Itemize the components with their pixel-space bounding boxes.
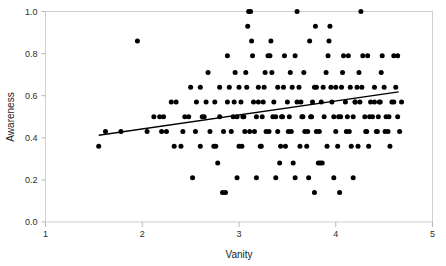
data-point xyxy=(252,129,257,134)
y-tick-label: 0.4 xyxy=(25,133,38,143)
data-point xyxy=(288,70,293,75)
data-point xyxy=(251,100,256,105)
data-point xyxy=(345,114,350,119)
data-point xyxy=(145,129,150,134)
data-point xyxy=(325,144,330,149)
data-point xyxy=(206,70,211,75)
data-point xyxy=(306,175,311,180)
data-point xyxy=(223,190,228,195)
data-point xyxy=(333,129,338,134)
data-point xyxy=(341,53,346,58)
data-point xyxy=(360,53,365,58)
data-point xyxy=(337,190,342,195)
data-point xyxy=(290,85,295,90)
data-point xyxy=(270,114,275,119)
data-point xyxy=(358,9,363,14)
data-point xyxy=(372,85,377,90)
data-point xyxy=(256,100,261,105)
data-point xyxy=(344,129,349,134)
data-point xyxy=(212,100,217,105)
y-tick-label: 0.6 xyxy=(25,91,38,101)
data-point xyxy=(217,85,222,90)
data-point xyxy=(263,70,268,75)
data-point xyxy=(193,129,198,134)
chart-canvas: 0.00.20.40.60.81.0 12345 Vanity Awarenes… xyxy=(0,0,446,266)
y-axis-label: Awareness xyxy=(5,92,16,141)
data-point xyxy=(395,114,400,119)
data-point xyxy=(366,144,371,149)
data-point xyxy=(336,114,341,119)
data-point xyxy=(247,129,252,134)
data-point xyxy=(151,114,156,119)
data-point xyxy=(357,100,362,105)
data-point xyxy=(103,129,108,134)
data-point xyxy=(322,114,327,119)
data-point xyxy=(277,161,282,166)
data-point xyxy=(321,85,326,90)
data-point xyxy=(301,70,306,75)
data-point xyxy=(383,129,388,134)
data-point xyxy=(135,38,140,43)
data-point xyxy=(348,85,353,90)
data-point xyxy=(232,100,237,105)
data-point xyxy=(254,114,259,119)
data-point xyxy=(239,144,244,149)
data-point xyxy=(307,38,312,43)
data-point xyxy=(326,38,331,43)
data-point xyxy=(377,100,382,105)
data-point xyxy=(280,114,285,119)
y-tick-label: 0.8 xyxy=(25,49,38,59)
data-point xyxy=(393,85,398,90)
data-point xyxy=(249,38,254,43)
data-point xyxy=(362,114,367,119)
y-tick-label: 1.0 xyxy=(25,7,38,17)
data-point xyxy=(353,100,358,105)
data-point xyxy=(227,85,232,90)
x-tick-label: 4 xyxy=(333,229,338,239)
data-point xyxy=(297,144,302,149)
data-point xyxy=(225,100,230,105)
data-point xyxy=(266,129,271,134)
data-point xyxy=(335,144,340,149)
data-point xyxy=(283,144,288,149)
data-point xyxy=(180,129,185,134)
data-point xyxy=(299,114,304,119)
data-point xyxy=(268,38,273,43)
data-point xyxy=(267,53,272,58)
data-point xyxy=(365,53,370,58)
data-point xyxy=(317,129,322,134)
data-point xyxy=(327,24,332,29)
data-point xyxy=(309,114,314,119)
data-point xyxy=(376,114,381,119)
data-point xyxy=(372,100,377,105)
data-point xyxy=(260,114,265,119)
data-point xyxy=(202,114,207,119)
data-point xyxy=(275,85,280,90)
data-point xyxy=(204,100,209,105)
data-point xyxy=(96,144,101,149)
x-tick-label: 2 xyxy=(140,229,145,239)
data-point xyxy=(238,100,243,105)
data-point xyxy=(287,114,292,119)
data-point xyxy=(339,85,344,90)
data-point xyxy=(286,129,291,134)
data-point xyxy=(331,114,336,119)
data-point xyxy=(324,70,329,75)
data-point xyxy=(356,144,361,149)
data-point xyxy=(159,129,164,134)
data-point xyxy=(243,70,248,75)
data-point xyxy=(250,53,255,58)
data-point xyxy=(198,144,203,149)
data-point xyxy=(225,53,230,58)
data-point xyxy=(164,129,169,134)
data-point xyxy=(395,53,400,58)
y-tick-label: 0.2 xyxy=(25,175,38,185)
data-point xyxy=(293,175,298,180)
data-point xyxy=(340,70,345,75)
data-point xyxy=(237,85,242,90)
data-point xyxy=(296,85,301,90)
data-point xyxy=(254,175,259,180)
data-point xyxy=(256,85,261,90)
x-tick-label: 5 xyxy=(430,229,435,239)
x-tick-label: 3 xyxy=(236,229,241,239)
